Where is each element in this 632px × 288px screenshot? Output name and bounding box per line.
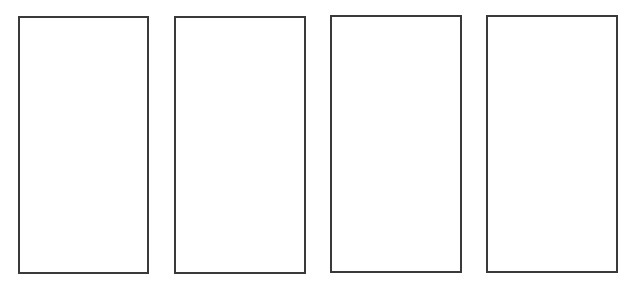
panel-2: [174, 16, 306, 274]
panel-3: [330, 15, 462, 273]
canvas: [0, 0, 632, 288]
panel-4: [486, 15, 618, 273]
panel-1: [18, 16, 149, 274]
